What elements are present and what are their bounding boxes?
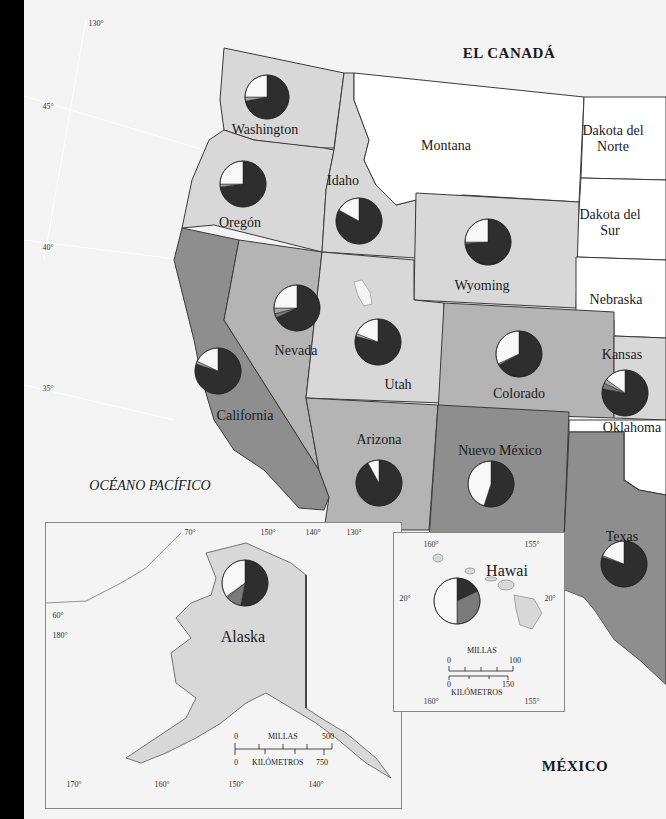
label-montana: Montana — [421, 138, 471, 154]
pie-chart-idaho — [334, 196, 384, 246]
label-south-dakota-line2: Sur — [579, 223, 640, 239]
label-oregon: Oregón — [219, 215, 261, 231]
pie-chart-nevada — [272, 283, 322, 333]
alaska-scale-km-label: KILÓMETROS — [252, 758, 304, 767]
hawaii-coord-top-160: 160° — [423, 540, 438, 549]
pie-layer — [24, 0, 666, 819]
label-hawaii: Hawai — [486, 562, 528, 580]
label-canada: EL CANADÁ — [463, 45, 555, 62]
pie-chart-washington — [243, 73, 291, 121]
label-south-dakota: Dakota del Sur — [579, 207, 640, 239]
pie-chart-arizona — [354, 458, 404, 508]
pie-chart-wyoming — [463, 217, 513, 267]
alaska-coord-top-70: 70° — [184, 528, 195, 537]
label-south-dakota-line1: Dakota del — [579, 207, 640, 223]
pie-chart-kansas — [600, 368, 650, 418]
hawaii-scale-miles-label: MILLAS — [467, 646, 497, 655]
label-nevada: Nevada — [275, 343, 318, 359]
hawaii-coord-bottom-160: 160° — [423, 697, 438, 706]
alaska-scale-km-max: 750 — [316, 758, 328, 767]
alaska-coord-bottom-170: 170° — [66, 780, 81, 789]
pie-chart-colorado — [494, 329, 544, 379]
alaska-scale-km-min: 0 — [234, 758, 238, 767]
hawaii-coord-side-right-20: 20° — [544, 594, 555, 603]
pie-slice-white — [434, 578, 457, 624]
alaska-scale-miles-min: 0 — [234, 732, 238, 741]
label-california: California — [217, 408, 274, 424]
label-alaska: Alaska — [221, 628, 265, 646]
coord-lat-35: 35° — [42, 384, 53, 393]
label-new-mexico: Nuevo México — [458, 443, 542, 459]
coord-lat-45: 45° — [42, 102, 53, 111]
alaska-scale-miles-max: 500 — [322, 732, 334, 741]
alaska-coord-top-150: 150° — [260, 528, 275, 537]
label-mexico: MÉXICO — [542, 758, 608, 775]
hawaii-coord-bottom-155: 155° — [524, 697, 539, 706]
alaska-coord-bottom-150: 150° — [228, 780, 243, 789]
label-north-dakota: Dakota del Norte — [582, 123, 643, 155]
alaska-coord-bottom-160: 160° — [154, 780, 169, 789]
pie-chart-oregón — [218, 159, 268, 209]
hawaii-coord-side-left-20: 20° — [399, 594, 410, 603]
hawaii-scale-bar — [448, 666, 528, 680]
alaska-scale: 0 MILLAS 500 0 KILÓMETROS 750 — [234, 732, 354, 772]
hawaii-scale-miles-min: 0 — [447, 656, 451, 665]
label-north-dakota-line2: Norte — [582, 139, 643, 155]
label-utah: Utah — [384, 377, 411, 393]
hawaii-coord-top-155: 155° — [524, 540, 539, 549]
pie-chart-alaska — [220, 558, 270, 608]
hawaii-scale-miles-max: 100 — [509, 656, 521, 665]
label-colorado: Colorado — [493, 386, 545, 402]
label-north-dakota-line1: Dakota del — [582, 123, 643, 139]
alaska-coord-left-180: 180° — [52, 631, 67, 640]
coord-lon-130: 130° — [88, 19, 103, 28]
alaska-coord-top-130: 130° — [346, 528, 361, 537]
pie-chart-texas — [599, 539, 649, 589]
alaska-coord-left-60: 60° — [52, 611, 63, 620]
label-kansas: Kansas — [602, 347, 642, 363]
alaska-scale-bar — [234, 743, 344, 757]
label-pacific-ocean: OCÉANO PACÍFICO — [89, 478, 210, 494]
map-frame: EL CANADÁ MÉXICO OCÉANO PACÍFICO Washing… — [24, 0, 666, 819]
hawaii-scale-km-max: 150 — [502, 680, 514, 689]
alaska-scale-miles-label: MILLAS — [268, 732, 298, 741]
label-wyoming: Wyoming — [454, 278, 509, 294]
label-arizona: Arizona — [356, 432, 401, 448]
hawaii-scale: MILLAS 0 100 0 150 KILÓMETROS — [447, 646, 532, 696]
label-idaho: Idaho — [327, 173, 359, 189]
pie-chart-hawai — [432, 576, 482, 626]
hawaii-scale-km-label: KILÓMETROS — [451, 688, 503, 697]
coord-lat-40: 40° — [42, 243, 53, 252]
label-oklahoma: Oklahoma — [603, 420, 661, 436]
label-texas: Texas — [606, 529, 638, 545]
label-washington: Washington — [232, 122, 299, 138]
pie-chart-nuevo-méxico — [466, 459, 516, 509]
label-nebraska: Nebraska — [590, 292, 643, 308]
alaska-coord-bottom-140: 140° — [308, 780, 323, 789]
pie-chart-utah — [353, 317, 403, 367]
alaska-coord-top-140: 140° — [305, 528, 320, 537]
pie-chart-california — [193, 346, 243, 396]
